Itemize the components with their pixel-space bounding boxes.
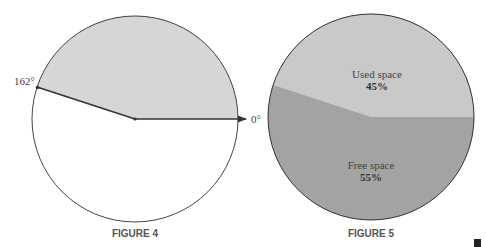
angle-label-0: 0° <box>251 113 261 125</box>
free-space-percent: 55% <box>360 171 382 183</box>
center-point <box>133 117 136 120</box>
figure-5-caption: FIGURE 5 <box>348 228 395 239</box>
end-of-section-marker <box>474 239 481 247</box>
figure-5: Used space 45% Free space 55% FIGURE 5 <box>268 14 474 239</box>
shaded-sector <box>37 16 238 119</box>
free-space-label: Free space <box>348 159 395 171</box>
figure-4-caption: FIGURE 4 <box>112 228 159 239</box>
used-space-percent: 45% <box>366 80 388 92</box>
figure-4: 162° 0° FIGURE 4 <box>14 16 261 239</box>
angle-label-162: 162° <box>14 75 35 87</box>
figures-canvas: 162° 0° FIGURE 4 Used space 45% Free spa… <box>0 0 486 247</box>
used-space-label: Used space <box>352 68 402 80</box>
point-162 <box>36 86 40 90</box>
